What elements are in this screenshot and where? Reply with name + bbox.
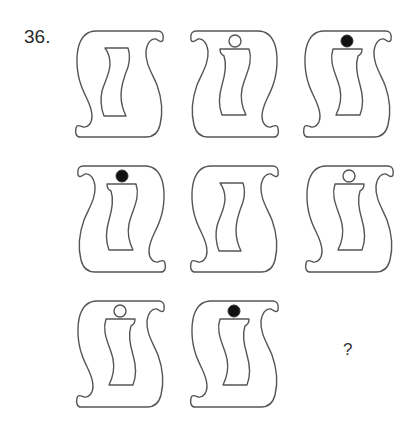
s-shape-with-filled-dot-icon	[189, 299, 281, 409]
figure-r1-c1	[74, 29, 166, 139]
figure-r1-c3	[302, 29, 394, 139]
s-shape-with-filled-dot-icon	[302, 29, 394, 139]
missing-figure-placeholder: ?	[343, 340, 352, 360]
question-number: 36.	[24, 26, 50, 48]
figure-r2-c1	[75, 164, 167, 274]
s-shape-with-hollow-dot-icon	[304, 164, 396, 274]
s-shape-outer-icon	[74, 29, 166, 139]
figure-r2-c2	[189, 164, 281, 274]
figure-r3-c1	[75, 299, 167, 409]
figure-r1-c2	[188, 29, 280, 139]
s-shape-outer-icon	[189, 164, 281, 274]
figure-r3-c2	[189, 299, 281, 409]
figure-r2-c3	[304, 164, 396, 274]
s-shape-with-hollow-dot-icon	[75, 299, 167, 409]
mirrored-s-shape-with-hollow-dot-icon	[188, 29, 280, 139]
mirrored-s-shape-with-filled-dot-icon	[75, 164, 167, 274]
